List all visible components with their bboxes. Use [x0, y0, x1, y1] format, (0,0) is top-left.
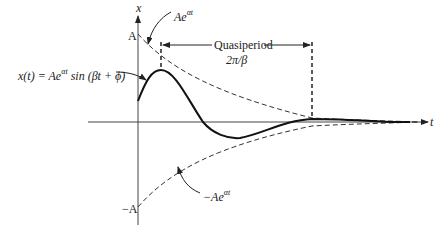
quasiperiod-title: Quasiperiod	[214, 39, 273, 51]
lower-envelope-label: −Aeαt	[203, 188, 230, 203]
upper-envelope-leader	[148, 12, 171, 44]
damped-oscillation-diagram: x t A −A Aeαt −Aeαt x(t) = Aeαt sin (βt …	[0, 0, 438, 231]
damped-oscillation-curve	[138, 70, 410, 138]
upper-envelope-curve	[138, 34, 420, 122]
tick-minus-A: −A	[122, 203, 137, 215]
t-axis-label: t	[430, 116, 433, 128]
x-axis-label: x	[136, 2, 141, 14]
tick-A: A	[128, 30, 137, 42]
upper-envelope-label: Aeαt	[174, 8, 193, 23]
equation-label: x(t) = Aeαt sin (βt + ϕ)	[18, 67, 125, 82]
lower-envelope-curve	[138, 122, 420, 207]
quasiperiod-value: 2π/β	[226, 54, 247, 66]
